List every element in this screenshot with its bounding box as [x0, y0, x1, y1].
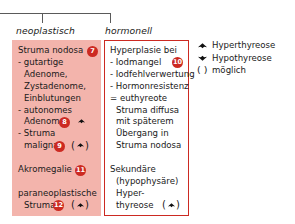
neoplastisch-box: Struma nodosa 7 - gutartige Adenome, Zys… — [12, 40, 101, 216]
list-item-label: - Struma — [18, 128, 55, 138]
list-item: (hypophysäre) — [105, 176, 188, 188]
branch-connector-horizontal — [0, 13, 110, 14]
list-item: Hyper- — [105, 188, 188, 200]
list-item: Struma nodosa 7 — [13, 45, 100, 57]
list-item: Akromegalie 11 — [13, 164, 100, 176]
list-item-label: Struma nodosa — [116, 140, 181, 150]
hormonell-line-list: Hyperplasie bei - Iodmangel 10 - Iodfehl… — [105, 41, 188, 212]
list-item: mit späterem — [105, 116, 188, 128]
list-item-label: Struma diffusa — [116, 105, 179, 115]
branch-connector-left-drop — [42, 13, 43, 23]
hyperthyreose-arrow-icon — [77, 117, 86, 126]
list-item: - Struma — [13, 128, 100, 140]
diagram-root: neoplastisch hormonell Struma nodosa 7 -… — [0, 0, 295, 224]
list-item-label: Struma — [24, 200, 55, 210]
list-item: - Iodmangel 10 — [105, 57, 188, 69]
hypothyreose-arrow-icon — [197, 53, 208, 63]
list-item-label: - Iodfehlverwertung — [110, 69, 195, 79]
neoplastisch-line-list: Struma nodosa 7 - gutartige Adenome, Zys… — [13, 41, 100, 212]
badge-7: 7 — [87, 46, 98, 57]
legend-label: Hypothyreose — [212, 52, 272, 65]
list-item-label: - Iodmangel — [110, 57, 161, 67]
list-item: paraneoplastische — [13, 188, 100, 200]
hormonell-box: Hyperplasie bei - Iodmangel 10 - Iodfehl… — [104, 40, 189, 216]
optional-paren-close: ) — [85, 200, 89, 210]
list-item: maligna 9 ( ) — [13, 140, 100, 152]
badge-12: 12 — [53, 200, 64, 211]
column-caption-hormonell: hormonell — [105, 25, 152, 36]
list-item: Sekundäre — [105, 164, 188, 176]
optional-paren-close: ) — [85, 141, 89, 151]
spacer — [105, 152, 188, 164]
list-item-label: Adenome, — [24, 69, 68, 79]
list-item: Struma 12 ( ) — [13, 200, 100, 212]
branch-connector-right-drop — [110, 13, 111, 23]
spacer — [13, 176, 100, 188]
badge-11: 11 — [75, 165, 86, 176]
list-item: - Iodfehlverwertung — [105, 69, 188, 81]
list-item-label: Hyperplasie bei — [110, 45, 177, 55]
column-caption-neoplastisch: neoplastisch — [16, 25, 75, 36]
list-item-label: Zystadenome, — [24, 81, 86, 91]
list-item: Zystadenome, — [13, 81, 100, 93]
hyperthyreose-arrow-icon — [197, 41, 208, 51]
badge-8: 8 — [59, 117, 70, 128]
list-item: Einblutungen — [13, 93, 100, 105]
list-item-label: Akromegalie — [18, 164, 72, 174]
list-item: Struma diffusa — [105, 105, 188, 117]
list-item-label: Struma nodosa — [18, 45, 83, 55]
hyperthyreose-arrow-icon — [76, 141, 85, 150]
legend-label: möglich — [212, 64, 246, 77]
list-item-label: Übergang in — [116, 128, 169, 138]
list-item-label: Hyper- — [116, 188, 144, 198]
list-item: - autonomes — [13, 105, 100, 117]
list-item-label: thyreose — [116, 200, 154, 210]
optional-paren-open: ( — [162, 200, 166, 210]
optional-paren-close: ) — [176, 200, 180, 210]
list-item-label: - gutartige — [18, 57, 63, 67]
list-item: Hyperplasie bei — [105, 45, 188, 57]
optional-paren-open: ( — [71, 200, 75, 210]
list-item: Übergang in — [105, 128, 188, 140]
list-item-label: paraneoplastische — [18, 188, 97, 198]
list-item-label: (hypophysäre) — [116, 176, 178, 186]
list-item: Struma nodosa — [105, 140, 188, 152]
hyperthyreose-arrow-icon — [76, 201, 85, 210]
list-item-label: Sekundäre — [110, 164, 156, 174]
hyperthyreose-arrow-icon — [167, 201, 176, 210]
legend-label: Hyperthyreose — [212, 39, 275, 52]
spacer — [13, 152, 100, 164]
optional-paren-icon: ( ) — [197, 64, 207, 77]
list-item: thyreose ( ) — [105, 200, 188, 212]
list-item: Adenome, — [13, 69, 100, 81]
list-item-label: = euthyreote — [110, 93, 167, 103]
optional-paren-open: ( — [71, 141, 75, 151]
list-item-label: - Hormonresistenz — [110, 81, 189, 91]
list-item-label: Adenom — [24, 116, 60, 126]
list-item: - gutartige — [13, 57, 100, 69]
list-item-label: mit späterem — [116, 116, 174, 126]
list-item: - Hormonresistenz — [105, 81, 188, 93]
list-item-label: - autonomes — [18, 105, 72, 115]
list-item-label: Einblutungen — [24, 93, 81, 103]
badge-9: 9 — [54, 141, 65, 152]
list-item: Adenom 8 — [13, 116, 100, 128]
list-item: = euthyreote — [105, 93, 188, 105]
badge-10: 10 — [172, 57, 183, 68]
